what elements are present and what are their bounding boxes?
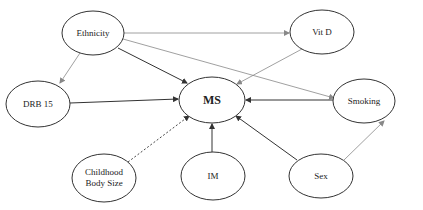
node-vitd: Vit D [290, 10, 354, 54]
edge-childhood-ms [128, 116, 189, 162]
node-childhood-body-size: Childhood Body Size [72, 154, 136, 202]
node-label-ms: MS [203, 93, 221, 107]
node-smoking: Smoking [333, 79, 395, 123]
node-label-smoking: Smoking [348, 96, 381, 106]
edge-vitd-ms [237, 49, 302, 84]
node-ethnicity: Ethnicity [62, 11, 124, 55]
node-label-ethnicity: Ethnicity [77, 28, 110, 38]
node-sex: Sex [289, 154, 353, 198]
edge-ethnicity-drb15 [60, 53, 80, 83]
node-label-vitd: Vit D [312, 27, 332, 37]
edge-sex-smoking [344, 121, 384, 160]
node-label-childhood-line2: Body Size [85, 178, 122, 188]
node-label-childhood-line1: Childhood [85, 167, 124, 177]
node-drb15: DRB 15 [6, 81, 70, 127]
node-label-drb15: DRB 15 [23, 99, 53, 109]
causal-diagram: Ethnicity Vit D MS DRB 15 Smoking Childh… [0, 0, 423, 210]
edge-drb15-ms [70, 99, 178, 103]
edge-sex-ms [236, 116, 297, 160]
node-ms: MS [179, 77, 245, 123]
node-im: IM [181, 152, 245, 200]
node-label-im: IM [208, 171, 219, 181]
edge-ethnicity-ms [118, 48, 187, 83]
node-label-sex: Sex [314, 171, 328, 181]
